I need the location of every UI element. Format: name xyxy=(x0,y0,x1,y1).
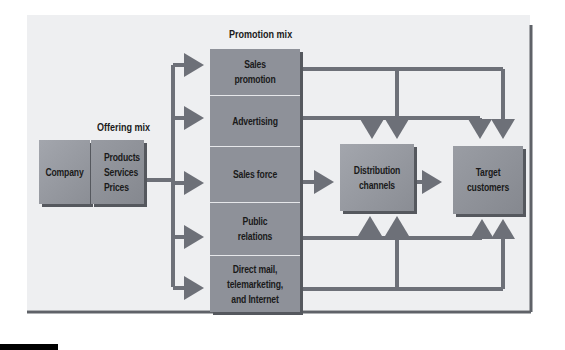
direct-mail-line2: telemarketing, xyxy=(227,277,283,292)
sales-promotion-line1: Sales xyxy=(244,57,266,72)
direct-mail-line3: and Internet xyxy=(231,292,278,307)
target-line1: Target xyxy=(476,165,501,180)
distribution-line1: Distribution xyxy=(354,163,400,178)
sales-promotion-box: Sales promotion xyxy=(218,49,292,95)
promotion-mix-label: Promotion mix xyxy=(229,28,292,40)
offering-services: Services xyxy=(104,165,138,180)
public-relations-box: Public relations xyxy=(218,203,292,255)
target-line2: customers xyxy=(467,180,509,195)
offering-products: Products xyxy=(104,150,140,165)
sales-force-box: Sales force xyxy=(218,147,292,202)
advertising-box: Advertising xyxy=(218,96,292,146)
direct-mail-line1: Direct mail, xyxy=(233,262,277,277)
company-label: Company xyxy=(44,140,86,204)
offering-mix-label: Offering mix xyxy=(97,121,150,133)
offering-label: Products Services Prices xyxy=(96,140,139,204)
target-customers-box: Target customers xyxy=(459,146,516,214)
public-relations-line1: Public xyxy=(243,214,268,229)
black-bar-decoration xyxy=(0,344,58,350)
public-relations-line2: relations xyxy=(238,229,272,244)
offering-prices: Prices xyxy=(104,180,129,195)
direct-mail-box: Direct mail, telemarketing, and Internet xyxy=(218,256,292,312)
sales-promotion-line2: promotion xyxy=(234,72,275,87)
distribution-channels-box: Distribution channels xyxy=(347,144,408,211)
distribution-line2: channels xyxy=(359,178,395,193)
